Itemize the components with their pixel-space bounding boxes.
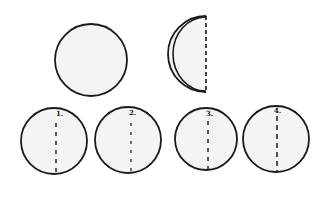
option-1[interactable]: 1.: [21, 108, 87, 174]
option-4[interactable]: 4.: [243, 106, 309, 172]
option-label: 3.: [206, 109, 213, 118]
option-3[interactable]: 3.: [175, 108, 237, 170]
option-label: 1.: [56, 109, 63, 118]
folded-half-circle: [168, 16, 206, 92]
option-2[interactable]: 2.: [95, 107, 161, 173]
paper-folding-diagram: 1. 2. 3. 4.: [0, 0, 327, 197]
option-label: 4.: [274, 106, 281, 115]
whole-circle: [55, 24, 127, 96]
option-label: 2.: [129, 108, 136, 117]
